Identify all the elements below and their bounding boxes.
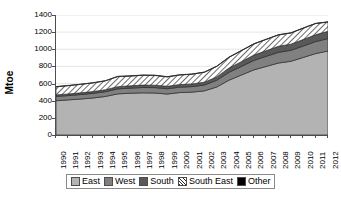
x-axis-tick-label: 2012 (331, 159, 340, 169)
y-axis-title: Mtoe (2, 52, 16, 112)
plot-area (55, 15, 328, 136)
y-axis-tick-labels: 0200400600800100012001400 (22, 15, 52, 135)
legend-label: East (82, 177, 100, 186)
x-axis-tick-label: 2005 (244, 159, 253, 169)
x-axis-tick-label: 1990 (59, 159, 68, 169)
x-axis-tick-mark (327, 135, 328, 138)
legend-item[interactable]: South (139, 177, 174, 186)
x-axis-tick-label: 1997 (145, 159, 154, 169)
x-axis-tick-label: 1998 (157, 159, 166, 169)
legend-label: Other (248, 177, 271, 186)
x-axis-tick-label: 2004 (232, 159, 241, 169)
x-axis-tick-label: 2008 (281, 159, 290, 169)
chart-legend: EastWestSouthSouth EastOther (66, 174, 275, 189)
legend-swatch-icon (237, 177, 246, 186)
y-axis-tick-label: 400 (24, 97, 52, 105)
legend-label: West (115, 177, 135, 186)
legend-swatch-icon (104, 177, 113, 186)
x-axis-tick-label: 2011 (318, 159, 327, 169)
x-axis-tick-label: 1999 (170, 159, 179, 169)
x-axis-tick-label: 2006 (256, 159, 265, 169)
x-axis-tick-label: 1993 (96, 159, 105, 169)
y-axis-tick-label: 1200 (24, 28, 52, 36)
y-axis-tick-label: 200 (24, 114, 52, 122)
plot-svg (56, 15, 328, 135)
x-axis-tick-labels: 1990199119921993199419951996199719981999… (55, 137, 327, 171)
legend-item[interactable]: Other (237, 177, 271, 186)
legend-swatch-icon (71, 177, 80, 186)
x-axis-tick-label: 2009 (293, 159, 302, 169)
legend-label: South East (189, 177, 233, 186)
legend-item[interactable]: South East (178, 177, 233, 186)
x-axis-tick-label: 2007 (269, 159, 278, 169)
y-axis-tick-label: 600 (24, 80, 52, 88)
y-axis-tick-label: 800 (24, 62, 52, 70)
stacked-area-chart: Mtoe 0200400600800100012001400 199019911… (0, 0, 341, 198)
legend-swatch-icon (139, 177, 148, 186)
legend-item[interactable]: East (71, 177, 100, 186)
y-axis-tick-label: 0 (24, 131, 52, 139)
y-axis-tick-label: 1000 (24, 45, 52, 53)
x-axis-tick-label: 2000 (182, 159, 191, 169)
x-axis-tick-label: 1991 (71, 159, 80, 169)
x-axis-tick-label: 1996 (133, 159, 142, 169)
x-axis-tick-label: 1994 (108, 159, 117, 169)
y-axis-tick-label: 1400 (24, 11, 52, 19)
legend-swatch-icon (178, 177, 187, 186)
legend-item[interactable]: West (104, 177, 135, 186)
x-axis-tick-label: 2001 (195, 159, 204, 169)
x-axis-tick-label: 2003 (219, 159, 228, 169)
y-axis-title-text: Mtoe (4, 70, 15, 94)
x-axis-tick-label: 2010 (306, 159, 315, 169)
x-axis-tick-label: 1992 (83, 159, 92, 169)
legend-label: South (150, 177, 174, 186)
area-series-group (56, 22, 328, 135)
x-axis-tick-label: 2002 (207, 159, 216, 169)
x-axis-tick-label: 1995 (120, 159, 129, 169)
